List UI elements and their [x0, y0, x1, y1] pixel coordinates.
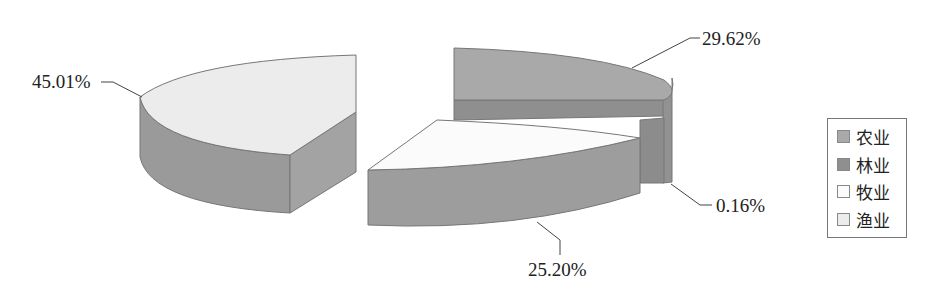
- label-forestry: 0.16%: [716, 195, 765, 217]
- slice-husbandry: [368, 120, 640, 226]
- legend-label: 渔业: [856, 207, 890, 232]
- leader-agriculture: [632, 38, 700, 68]
- swatch-husbandry: [837, 185, 850, 198]
- label-fishery: 45.01%: [32, 71, 91, 93]
- leader-husbandry: [537, 222, 560, 255]
- legend: 农业 林业 牧业 渔业: [827, 118, 907, 238]
- legend-item-fishery: 渔业: [837, 206, 906, 234]
- swatch-agriculture: [837, 130, 850, 143]
- label-husbandry: 25.20%: [528, 259, 587, 281]
- legend-item-forestry: 林业: [837, 151, 906, 179]
- legend-item-husbandry: 牧业: [837, 178, 906, 206]
- slice-forestry: [640, 118, 664, 183]
- legend-label: 农业: [856, 124, 890, 149]
- label-agriculture: 29.62%: [702, 28, 761, 50]
- swatch-fishery: [837, 213, 850, 226]
- leader-fishery: [101, 82, 142, 97]
- slice-fishery: [140, 55, 356, 213]
- legend-label: 林业: [856, 152, 890, 177]
- legend-label: 牧业: [856, 179, 890, 204]
- legend-item-agriculture: 农业: [837, 123, 906, 151]
- leader-forestry: [671, 184, 712, 205]
- swatch-forestry: [837, 158, 850, 171]
- pie-chart-3d: [0, 0, 930, 296]
